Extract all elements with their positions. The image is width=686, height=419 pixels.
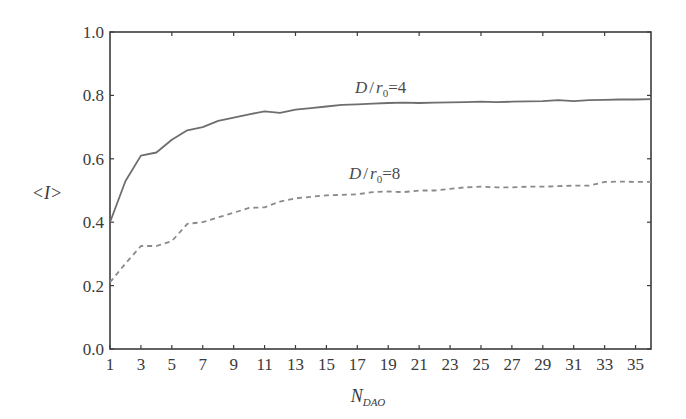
series-label-d-r0-8: D/r0=8 [348, 164, 400, 185]
y-tick-label: 0.0 [83, 340, 104, 359]
label-value: =4 [388, 78, 407, 97]
x-tick-label: 7 [198, 355, 207, 374]
series-line-d-r0-8 [110, 182, 651, 283]
x-tick-label: 31 [565, 355, 582, 374]
x-tick-label: 35 [627, 355, 644, 374]
y-tick-label: 0.8 [83, 86, 104, 105]
x-axis-label-main: N [350, 386, 364, 406]
x-tick-label: 33 [596, 355, 613, 374]
y-axis-ticks: 0.00.20.40.60.81.0 [83, 23, 651, 359]
y-tick-label: 0.6 [83, 150, 104, 169]
label-d: D [348, 164, 362, 183]
x-tick-label: 27 [503, 355, 521, 374]
x-tick-label: 5 [168, 355, 177, 374]
series-label-d-r0-4: D/r0=4 [354, 78, 407, 99]
x-tick-label: 29 [534, 355, 551, 374]
label-slash: / [369, 78, 374, 97]
x-tick-label: 23 [442, 355, 459, 374]
label-slash: / [363, 164, 368, 183]
x-axis-label: NDAO [350, 386, 386, 408]
x-tick-label: 3 [137, 355, 146, 374]
x-tick-label: 9 [229, 355, 238, 374]
x-axis-ticks: 1357911131517192123252729313335 [106, 32, 644, 374]
x-tick-label: 19 [380, 355, 397, 374]
label-d: D [354, 78, 368, 97]
x-tick-label: 1 [106, 355, 115, 374]
x-tick-label: 17 [349, 355, 367, 374]
x-tick-label: 13 [287, 355, 304, 374]
series-layer [110, 99, 651, 282]
x-axis-label-sub: DAO [362, 396, 386, 408]
x-tick-label: 21 [411, 355, 428, 374]
y-tick-label: 0.4 [83, 213, 105, 232]
series-line-d-r0-4 [110, 99, 651, 222]
y-axis-label: <I> [32, 183, 62, 203]
x-tick-label: 15 [318, 355, 335, 374]
label-value: =8 [382, 164, 400, 183]
y-tick-label: 1.0 [83, 23, 104, 42]
line-chart: 0.00.20.40.60.81.0 135791113151719212325… [0, 0, 686, 419]
x-tick-label: 11 [256, 355, 272, 374]
x-tick-label: 25 [472, 355, 489, 374]
y-tick-label: 0.2 [83, 277, 104, 296]
